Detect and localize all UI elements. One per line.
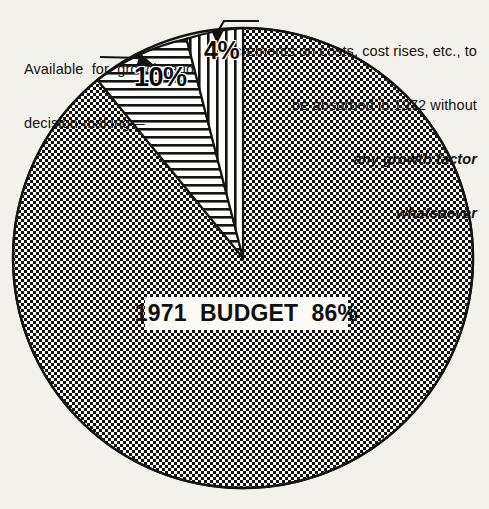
increments-on-costs-label: —Increments on costs, cost rises, etc., … — [208, 6, 477, 258]
slice-percent-label-4: 4% — [204, 36, 239, 65]
available-for-growth-label: Available for growth and decision-making… — [24, 24, 194, 168]
increments-on-costs-line-3: any growth factor — [208, 150, 477, 168]
available-for-growth-line-2: decision-making— — [24, 114, 194, 132]
budget-band: 1971 BUDGET 86% — [145, 297, 348, 330]
budget-band-text: 1971 BUDGET 86% — [135, 300, 358, 327]
increments-on-costs-line-1: —Increments on costs, cost rises, etc., … — [208, 42, 477, 60]
increments-on-costs-line-4: whatsoever — [208, 204, 477, 222]
pie-chart-figure: Available for growth and decision-making… — [0, 0, 489, 509]
increments-on-costs-line-2: be absorbed in 1972 without — [208, 96, 477, 114]
slice-percent-label-10: 10% — [134, 62, 187, 93]
